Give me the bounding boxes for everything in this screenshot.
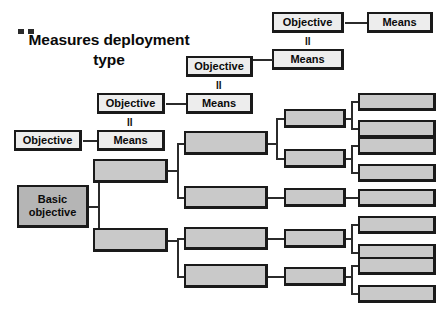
connector-c2a-bracket bbox=[276, 118, 278, 159]
legend-objective-level3[interactable]: Objective bbox=[272, 12, 344, 33]
node-basic-objective[interactable]: Basic objective bbox=[17, 185, 89, 228]
connector-l3-objective-to-means bbox=[345, 22, 367, 24]
node-c3-c[interactable] bbox=[284, 188, 346, 207]
connector-c3e-bracket bbox=[351, 265, 353, 294]
node-c4-e[interactable] bbox=[358, 189, 436, 207]
legend-means-base[interactable]: Means bbox=[97, 130, 165, 151]
node-c4-b[interactable] bbox=[358, 120, 436, 138]
node-c2-a[interactable] bbox=[184, 131, 268, 155]
page-title: Measures deployment type bbox=[14, 30, 204, 70]
connector-c2d-to-c3e bbox=[268, 276, 285, 278]
diagram-canvas: Measures deployment type Objective Means… bbox=[0, 0, 444, 314]
legend-objective-level1[interactable]: Objective bbox=[97, 93, 165, 114]
node-c4-h[interactable] bbox=[358, 257, 436, 275]
node-c2-c[interactable] bbox=[184, 227, 268, 250]
node-c4-i[interactable] bbox=[358, 285, 436, 303]
connector-c1a-bracket bbox=[177, 143, 179, 198]
node-c3-e[interactable] bbox=[284, 267, 346, 286]
equals-symbol-level2: II bbox=[216, 81, 222, 91]
node-c3-a[interactable] bbox=[284, 109, 346, 128]
node-c4-a[interactable] bbox=[358, 93, 436, 111]
node-c2-d[interactable] bbox=[184, 264, 268, 288]
node-c4-d[interactable] bbox=[358, 164, 436, 182]
node-c3-d[interactable] bbox=[284, 229, 346, 248]
connector-c2a-to-c3a bbox=[276, 118, 284, 120]
node-c1-b[interactable] bbox=[93, 228, 168, 252]
connector-c1b-bracket bbox=[177, 238, 179, 277]
legend-means-level3[interactable]: Means bbox=[367, 12, 433, 33]
connector-l2-objective-to-means bbox=[252, 59, 273, 61]
node-c4-c[interactable] bbox=[358, 137, 436, 155]
node-c1-a[interactable] bbox=[93, 159, 168, 183]
node-c2-b[interactable] bbox=[184, 186, 268, 209]
connector-l1-objective-to-means bbox=[166, 103, 186, 105]
connector-c2b-to-c3c bbox=[268, 197, 285, 199]
node-c4-f[interactable] bbox=[358, 216, 436, 234]
equals-symbol-level1: II bbox=[127, 118, 133, 128]
connector-c3a-bracket bbox=[351, 101, 353, 130]
connector-c3b-bracket bbox=[351, 145, 353, 173]
connector-c2a-to-c3b bbox=[276, 158, 284, 160]
connector-base-objective-to-means bbox=[83, 140, 97, 142]
node-c3-b[interactable] bbox=[284, 149, 346, 168]
legend-means-level2-lower[interactable]: Means bbox=[272, 49, 344, 70]
connector-c2c-to-c3d bbox=[268, 238, 285, 240]
legend-means-level1[interactable]: Means bbox=[186, 93, 253, 114]
connector-c3d-bracket bbox=[351, 224, 353, 253]
legend-objective-base[interactable]: Objective bbox=[14, 130, 82, 151]
equals-symbol-level3: II bbox=[305, 37, 311, 47]
legend-objective-level2[interactable]: Objective bbox=[186, 56, 253, 77]
